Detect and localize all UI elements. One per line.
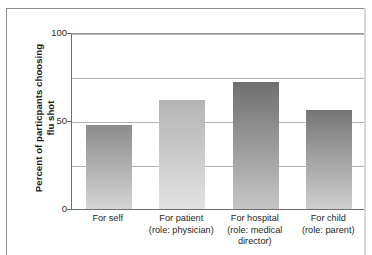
y-axis-tick-group: 100 50 0 [33,33,67,209]
bar-for-self[interactable] [86,125,132,210]
bars-layer [72,34,364,209]
y-tick-label-50: 50 [37,115,67,126]
y-tick-label-0: 0 [37,203,67,214]
x-label-line-3: director) [211,236,299,248]
bar-for-hospital[interactable] [233,82,279,209]
x-label-for-child: For child (role: parent) [284,213,372,236]
bar-for-patient[interactable] [159,100,205,209]
x-label-line-2: (role: parent) [284,225,372,237]
plot-area [71,33,365,209]
y-tick-label-100: 100 [37,27,67,38]
figure-frame: Percent of particpants choosing flu shot… [6,8,366,255]
x-label-line-1: For child [284,213,372,225]
bar-for-child[interactable] [306,110,352,209]
x-axis-category-labels: For self For patient (role: physician) F… [71,213,365,255]
